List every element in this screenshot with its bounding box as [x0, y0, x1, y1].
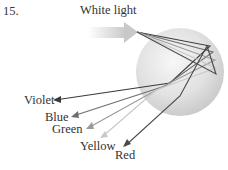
violet-label: Violet: [24, 94, 55, 107]
yellow-label: Yellow: [80, 140, 116, 153]
problem-number: 15.: [3, 5, 19, 18]
white-light-label: White light: [80, 4, 137, 17]
green-label: Green: [52, 123, 83, 136]
water-droplet: [136, 28, 224, 116]
incoming-light-arrow: [88, 22, 138, 43]
red-label: Red: [115, 149, 135, 162]
